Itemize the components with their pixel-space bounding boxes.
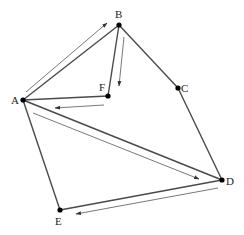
- node-label-b: B: [115, 8, 122, 20]
- node-b: [116, 22, 121, 27]
- node-c: [175, 85, 180, 90]
- node-d: [219, 177, 224, 182]
- node-e: [57, 207, 62, 212]
- edge-a-d: [23, 100, 222, 180]
- node-label-e: E: [55, 215, 62, 227]
- node-label-c: C: [181, 82, 188, 94]
- arrows-layer: [26, 23, 218, 214]
- graph-diagram: ABCDEF: [0, 0, 244, 235]
- arrow-f-to-a-icon: [55, 105, 104, 108]
- edge-d-e: [60, 180, 222, 210]
- arrow-a-to-d-icon: [33, 113, 199, 179]
- arrow-d-to-e-icon: [76, 188, 218, 214]
- arrow-a-to-b-icon: [26, 23, 107, 92]
- edge-c-d: [178, 88, 222, 180]
- edge-f-a: [23, 96, 108, 100]
- node-a: [20, 97, 25, 102]
- edge-b-c: [119, 25, 178, 88]
- node-label-d: D: [226, 175, 234, 187]
- node-label-a: A: [11, 94, 19, 106]
- node-label-f: F: [99, 81, 105, 93]
- edge-b-f: [108, 25, 119, 96]
- arrow-b-to-f-icon: [119, 37, 124, 86]
- node-f: [105, 93, 110, 98]
